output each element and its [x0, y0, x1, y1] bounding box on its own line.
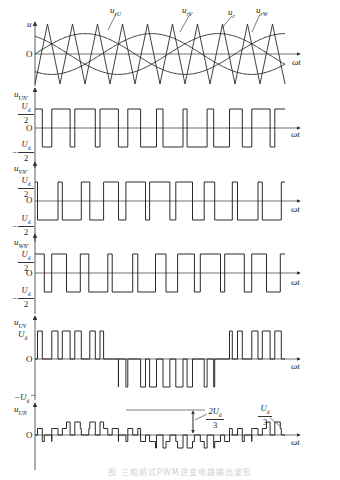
uun-x-label: ωt: [291, 130, 300, 139]
figure-caption: 图 三相桥式PWM逆变电路输出波形: [60, 466, 300, 477]
uwn-x-label: ωt: [291, 278, 300, 287]
uvn-y-label: uVN': [14, 164, 27, 175]
uvn-neg-sign: −: [12, 222, 17, 231]
label-urW: urW: [256, 6, 268, 17]
uwn-y-label: uWN': [14, 238, 29, 249]
label-urV: urV: [182, 6, 193, 17]
uuv-panel: [31, 316, 300, 400]
uuv-origin: O: [26, 355, 33, 364]
carrier-y-label: u: [27, 20, 32, 29]
uun-y-label: uUN': [14, 90, 28, 101]
label-urU: urU: [110, 6, 121, 17]
uuv-neg-level: −Ud: [14, 393, 29, 404]
uuv-y-label: uUV: [14, 318, 27, 329]
uwn-origin: O: [26, 269, 33, 278]
uwn-neg-sign: −: [12, 294, 17, 303]
annotation-ud-3: Ud3: [258, 404, 272, 427]
uvn-neg-level: Ud2: [18, 214, 34, 237]
carrier-panel: [35, 14, 300, 86]
annotation-2ud-3: 2Ud3: [206, 407, 224, 430]
uvn-prime-panel: [35, 162, 300, 242]
uun-neg-level: Ud2: [18, 140, 34, 163]
uunn-origin: O: [26, 431, 33, 440]
uwn-prime-panel: [35, 234, 300, 314]
uwn-neg-level: Ud2: [18, 286, 34, 309]
carrier-origin: O: [26, 50, 33, 59]
uun-neg-sign: −: [12, 148, 17, 157]
uun-prime-panel: [35, 88, 300, 168]
uuv-pos-level: Ud: [18, 330, 27, 341]
uun-origin: O: [26, 124, 33, 133]
pwm-waveform-figure: [0, 0, 340, 480]
uuv-x-label: ωt: [291, 362, 300, 371]
label-uc: uc: [228, 8, 235, 19]
uunn-x-label: ωt: [291, 438, 300, 447]
uvn-origin: O: [26, 196, 33, 205]
carrier-x-label: ωt: [292, 58, 301, 67]
uunn-y-label: uUN: [14, 405, 27, 416]
uun-pos-level: Ud2: [18, 102, 34, 125]
uvn-x-label: ωt: [291, 205, 300, 214]
